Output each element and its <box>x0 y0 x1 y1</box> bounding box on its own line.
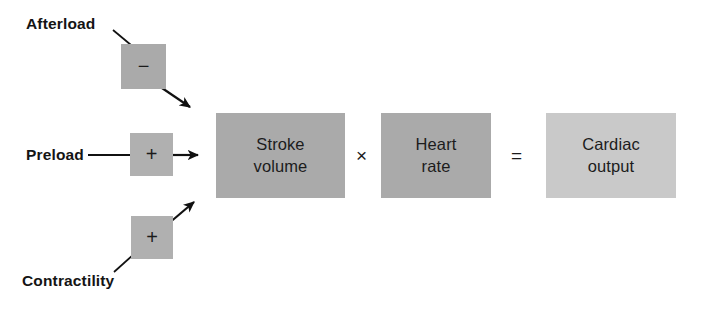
heart-rate-line2: rate <box>422 156 451 177</box>
equals-operator: = <box>511 146 522 165</box>
stroke-volume-line1: Stroke <box>256 134 304 155</box>
multiplication-operator: × <box>356 146 367 165</box>
afterload-arrow <box>159 86 190 107</box>
cardiac-output-line2: output <box>588 156 634 177</box>
preload-sign-box: + <box>130 133 173 176</box>
cardiac-output-line1: Cardiac <box>582 134 640 155</box>
contractility-sign-box: + <box>131 216 173 259</box>
stroke-volume-line2: volume <box>254 156 308 177</box>
plus-sign: + <box>146 227 158 247</box>
afterload-leader-line <box>113 30 131 45</box>
stroke-volume-box: Stroke volume <box>216 113 345 198</box>
minus-sign: − <box>138 56 150 76</box>
plus-sign: + <box>146 144 158 164</box>
cardiac-output-box: Cardiac output <box>546 113 676 198</box>
preload-label: Preload <box>26 146 84 164</box>
afterload-label: Afterload <box>26 15 95 33</box>
cardiac-output-diagram: Afterload Preload Contractility − + + St… <box>0 0 710 316</box>
heart-rate-box: Heart rate <box>381 113 491 198</box>
contractility-label: Contractility <box>22 272 114 290</box>
afterload-sign-box: − <box>121 44 166 89</box>
heart-rate-line1: Heart <box>416 134 457 155</box>
